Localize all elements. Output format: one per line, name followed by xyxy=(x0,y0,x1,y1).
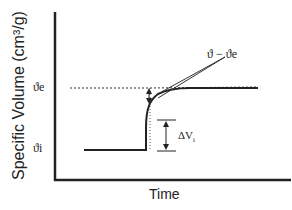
leader-line-1 xyxy=(156,57,225,95)
leader-line-2 xyxy=(158,57,225,98)
initial-label: ϑi xyxy=(33,141,42,156)
delta-v-text: ΔV xyxy=(178,129,193,141)
delta-v-label: ΔVi xyxy=(178,129,195,144)
deviation-label: ϑ − ϑe xyxy=(207,47,237,62)
volume-curve xyxy=(84,88,258,150)
delta-v-subscript: i xyxy=(193,136,195,144)
diagram-canvas xyxy=(0,0,292,210)
y-axis-label: Specific Volume (cm³/g) xyxy=(10,20,28,180)
x-axis-label: Time xyxy=(149,186,180,202)
equilibrium-label: ϑe xyxy=(33,80,44,95)
delta-v-bracket xyxy=(157,120,176,151)
